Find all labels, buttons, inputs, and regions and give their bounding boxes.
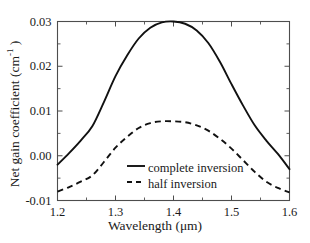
legend-label-complete-inversion: complete inversion bbox=[148, 161, 243, 176]
y-axis-title-wrap: Net gain coefficient (cm-1 ) bbox=[4, 14, 24, 214]
y-axis-title: Net gain coefficient (cm-1 ) bbox=[5, 41, 23, 188]
legend-label-half-inversion: half inversion bbox=[148, 177, 217, 192]
x-tick-label: 1.6 bbox=[270, 206, 310, 219]
x-tick-label: 1.2 bbox=[38, 206, 78, 219]
x-axis-title: Wavelength (μm) bbox=[0, 218, 310, 234]
curve-complete-inversion bbox=[58, 21, 290, 169]
x-tick-label: 1.5 bbox=[212, 206, 252, 219]
figure-chart: 0.030.020.010.00-0.01 1.21.31.41.51.6 Wa… bbox=[0, 0, 310, 243]
x-tick-label: 1.3 bbox=[96, 206, 136, 219]
x-tick-label: 1.4 bbox=[154, 206, 194, 219]
legend-line-samples bbox=[127, 166, 145, 182]
